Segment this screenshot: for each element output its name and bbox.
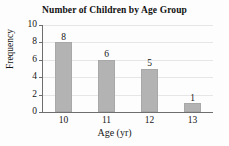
y-axis-label: Frequency — [5, 14, 15, 84]
plot-area: 10 8 6 4 2 0 8 6 5 — [42, 25, 213, 112]
bar-chart: Number of Children by Age Group Frequenc… — [0, 0, 229, 146]
bar-value-label: 1 — [190, 94, 195, 104]
x-axis-label: Age (yr) — [0, 127, 229, 138]
bar-value-label: 5 — [147, 59, 152, 69]
y-tick-mark — [39, 42, 42, 43]
y-tick-label: 4 — [32, 72, 37, 82]
y-tick-mark — [39, 95, 42, 96]
y-tick-mark — [39, 112, 42, 113]
y-tick-mark — [39, 25, 42, 26]
y-tick-label: 8 — [32, 38, 37, 48]
chart-title: Number of Children by Age Group — [0, 5, 229, 15]
bar-value-label: 6 — [104, 50, 109, 60]
y-tick-label: 6 — [32, 55, 37, 65]
bar-12: 5 — [141, 69, 158, 113]
bar-value-label: 8 — [61, 33, 66, 43]
x-tick-label-12: 12 — [145, 116, 155, 126]
x-tick-label-11: 11 — [102, 116, 111, 126]
bar-10: 8 — [55, 42, 72, 112]
gridline-10 — [42, 25, 213, 26]
y-tick-mark — [39, 60, 42, 61]
x-tick-label-13: 13 — [188, 116, 198, 126]
x-tick-label-10: 10 — [59, 116, 69, 126]
x-axis-line — [42, 112, 213, 113]
y-tick-mark — [39, 77, 42, 78]
y-axis-line — [42, 25, 43, 113]
y-tick-label: 0 — [32, 107, 37, 117]
y-tick-label: 10 — [28, 20, 38, 30]
bar-13: 1 — [184, 103, 201, 112]
y-tick-label: 2 — [32, 90, 37, 100]
bar-11: 6 — [98, 60, 115, 112]
